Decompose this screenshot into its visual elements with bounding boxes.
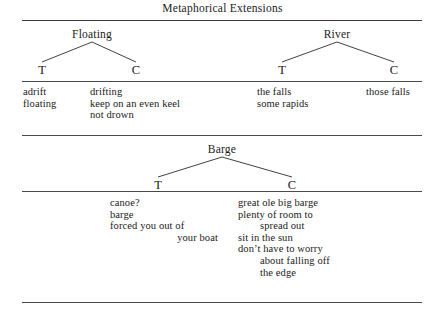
list-item: sit in the sun — [238, 232, 330, 244]
page-title: Metaphorical Extensions — [0, 2, 445, 14]
list-item: barge — [110, 209, 218, 221]
rule-under-barge-tree — [22, 191, 422, 192]
text-column-barge-topic: canoe? barge forced you out of your boat — [110, 197, 218, 243]
list-item: drifting — [90, 86, 180, 98]
text-column-floating-comment: drifting keep on an even keel not drown — [90, 86, 180, 121]
list-item: keep on an even keel — [90, 98, 180, 110]
branch-barge-right — [222, 157, 292, 177]
text-column-barge-comment: great ole big barge plenty of room to sp… — [238, 197, 330, 278]
tree-leaf-floating-topic: T — [38, 63, 46, 78]
rule-under-top-trees — [22, 81, 422, 82]
list-item: canoe? — [110, 197, 218, 209]
list-item: about falling off — [238, 255, 330, 267]
rule-above-barge-tree — [22, 135, 422, 136]
list-item: those falls — [366, 86, 410, 98]
text-column-river-comment: those falls — [366, 86, 410, 98]
tree-node-barge: Barge — [208, 143, 236, 155]
rule-figure-bottom — [22, 302, 422, 303]
list-item: forced you out of — [110, 220, 218, 232]
list-item: not drown — [90, 109, 180, 121]
tree-leaf-barge-topic: T — [154, 178, 162, 193]
list-item: the falls — [257, 86, 309, 98]
list-item: your boat — [110, 232, 218, 244]
tree-branch-lines — [0, 0, 445, 322]
list-item: great ole big barge — [238, 197, 330, 209]
list-item: floating — [23, 98, 56, 110]
branch-barge-left — [158, 157, 222, 177]
list-item: adrift — [23, 86, 56, 98]
rule-under-title — [22, 20, 422, 21]
tree-leaf-floating-comment: C — [132, 63, 140, 78]
list-item: plenty of room to — [238, 209, 330, 221]
metaphorical-extensions-figure: Metaphorical Extensions Floating T C adr… — [0, 0, 445, 322]
tree-leaf-barge-comment: C — [288, 178, 296, 193]
branch-floating-left — [42, 42, 92, 62]
tree-leaf-river-topic: T — [278, 63, 286, 78]
list-item: some rapids — [257, 98, 309, 110]
list-item: spread out — [238, 220, 330, 232]
branch-river-right — [337, 42, 394, 62]
list-item: don’t have to worry — [238, 243, 330, 255]
text-column-river-topic: the falls some rapids — [257, 86, 309, 109]
tree-leaf-river-comment: C — [390, 63, 398, 78]
text-column-floating-topic: adrift floating — [23, 86, 56, 109]
branch-river-left — [282, 42, 337, 62]
tree-node-river: River — [324, 28, 351, 40]
list-item: the edge — [238, 267, 330, 279]
tree-node-floating: Floating — [72, 28, 112, 40]
branch-floating-right — [92, 42, 136, 62]
